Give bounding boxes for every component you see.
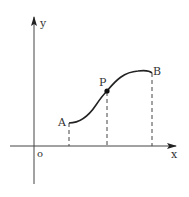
point-p-label: P (99, 76, 107, 89)
x-axis-label: x (171, 148, 178, 161)
origin-label: o (37, 148, 43, 159)
point-b-label: B (153, 65, 161, 78)
point-p-marker (104, 88, 109, 93)
function-diagram: y x o A P B (0, 0, 189, 197)
point-a-label: A (57, 116, 67, 129)
function-curve (69, 71, 152, 123)
y-axis-label: y (39, 17, 47, 30)
